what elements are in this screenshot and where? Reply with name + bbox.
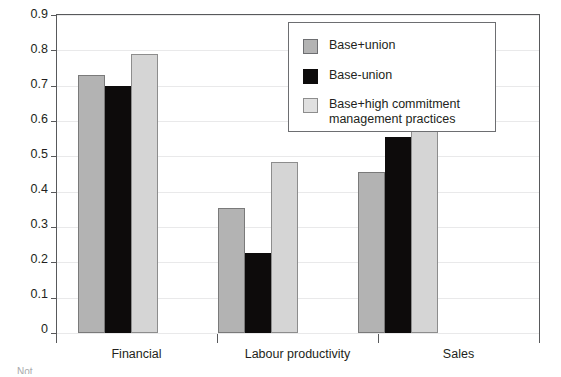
legend-item-label: Base-union	[329, 68, 392, 83]
y-tick-label: 0.5	[4, 147, 48, 161]
y-axis-tick	[51, 86, 57, 87]
y-tick-label: 0	[4, 322, 48, 336]
legend-swatch-icon	[303, 39, 318, 54]
x-tick-label-financial: Financial	[56, 347, 217, 361]
y-axis-tick	[51, 192, 57, 193]
y-tick-label: 0.9	[4, 7, 48, 21]
y-axis-tick	[51, 50, 57, 51]
x-axis-separator	[56, 334, 57, 343]
x-axis-separator	[539, 334, 540, 343]
bar-sales-base-minus-union	[385, 137, 411, 333]
legend-item-base-plus-hcmp: Base+high commitment management practice…	[303, 97, 460, 127]
y-tick-label: 0.2	[4, 252, 48, 266]
y-tick-label: 0.7	[4, 77, 48, 91]
y-tick-label: 0.4	[4, 182, 48, 196]
y-axis-tick	[51, 121, 57, 122]
legend-swatch-icon	[303, 98, 318, 113]
y-tick-label: 0.3	[4, 217, 48, 231]
y-axis-tick	[51, 15, 57, 16]
y-axis-tick	[51, 156, 57, 157]
y-tick-label: 0.6	[4, 112, 48, 126]
legend: Base+union Base-union Base+high commitme…	[288, 22, 496, 132]
x-tick-label-labour-productivity: Labour productivity	[217, 347, 378, 361]
legend-item-base-minus-union: Base-union	[303, 68, 392, 84]
legend-item-label: Base+high commitment management practice…	[329, 97, 460, 127]
legend-item-base-plus-union: Base+union	[303, 38, 395, 54]
bar-labour-productivity-base-plus-hcmp	[271, 162, 298, 333]
y-axis-tick	[51, 227, 57, 228]
gridline	[57, 15, 539, 16]
bar-chart: 0.9 0.8 0.7 0.6 0.5 0.4 0.3 0.2 0.1 0	[0, 0, 561, 377]
bar-labour-productivity-base-minus-union	[245, 253, 271, 333]
x-tick-label-sales: Sales	[378, 347, 539, 361]
y-axis-tick	[51, 298, 57, 299]
bar-labour-productivity-base-plus-union	[218, 208, 245, 333]
bar-sales-base-plus-union	[358, 172, 385, 333]
bar-financial-base-minus-union	[105, 86, 131, 333]
footnote-fragment: Not	[17, 366, 57, 374]
gridline	[57, 333, 539, 334]
bar-financial-base-plus-hcmp	[131, 54, 158, 333]
legend-item-label: Base+union	[329, 38, 395, 53]
y-axis-tick	[51, 262, 57, 263]
legend-swatch-icon	[303, 69, 318, 84]
x-axis-separator	[378, 334, 379, 343]
y-tick-label: 0.8	[4, 42, 48, 56]
x-axis-separator	[217, 334, 218, 343]
bar-financial-base-plus-union	[78, 75, 105, 333]
y-tick-label: 0.1	[4, 287, 48, 301]
